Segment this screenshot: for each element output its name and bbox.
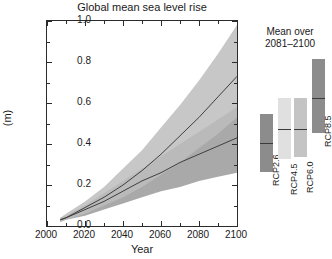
rcp-median-line (294, 129, 307, 130)
x-tick (199, 221, 200, 226)
x-tick-label: 2060 (140, 230, 180, 240)
x-tick-top (161, 21, 162, 26)
x-tick-label: 2020 (64, 230, 104, 240)
y-tick-right (234, 165, 237, 166)
x-tick-top (218, 21, 219, 24)
y-tick-label: 0.4 (51, 138, 91, 148)
y-tick-right (232, 103, 237, 104)
x-tick (237, 221, 238, 226)
y-tick-label: 0.6 (51, 97, 91, 107)
rcp-median-line (312, 98, 325, 99)
y-axis-title: (m) (1, 110, 13, 127)
x-tick (161, 221, 162, 226)
y-tick (47, 124, 50, 125)
x-tick-top (237, 21, 238, 26)
rcp-label-rcp8-5: RCP8.5 (323, 115, 332, 147)
rcp-label-rcp6-0: RCP6.0 (305, 162, 315, 194)
y-tick (47, 83, 50, 84)
x-tick-label: 2000 (26, 230, 66, 240)
panel-heading-line2: 2081–2100 (248, 38, 332, 50)
y-tick (47, 165, 50, 166)
y-tick (47, 206, 50, 207)
x-tick (47, 221, 48, 226)
x-tick-top (199, 21, 200, 26)
y-tick-right (234, 83, 237, 84)
x-tick-label: 2080 (178, 230, 218, 240)
rcp-label-rcp4-5: RCP4.5 (289, 164, 299, 196)
rcp-median-line (278, 129, 291, 130)
panel-heading: Mean over 2081–2100 (248, 26, 332, 50)
mean-over-panel: Mean over 2081–2100 RCP2.6RCP4.5RCP6.0RC… (248, 0, 332, 259)
panel-heading-line1: Mean over (248, 26, 332, 38)
rcp-bar-rcp6-0 (294, 98, 307, 157)
plot-area (46, 20, 238, 227)
x-tick-label: 2040 (102, 230, 142, 240)
y-tick-right (232, 144, 237, 145)
x-tick-top (180, 21, 181, 24)
page-title: Global mean sea level rise (46, 1, 238, 13)
rcp-bar-rcp4-5 (278, 98, 291, 160)
y-tick (47, 42, 50, 43)
x-tick (180, 223, 181, 226)
x-tick-top (142, 21, 143, 24)
y-tick-label: 1.0 (51, 15, 91, 25)
y-tick-right (232, 226, 237, 227)
y-tick-right (232, 62, 237, 63)
y-tick-right (234, 206, 237, 207)
y-tick-label: 0.8 (51, 56, 91, 66)
y-tick-right (232, 185, 237, 186)
x-tick (104, 223, 105, 226)
sea-level-rise-figure: Global mean sea level rise 0.00.20.40.60… (0, 0, 332, 259)
x-tick (123, 221, 124, 226)
x-axis-title: Year (46, 243, 238, 255)
x-tick-top (104, 21, 105, 24)
plot-svg (47, 21, 237, 226)
y-tick-right (234, 42, 237, 43)
x-tick-top (47, 21, 48, 26)
rcp-median-line (260, 143, 273, 144)
y-tick-right (234, 124, 237, 125)
x-tick (218, 223, 219, 226)
y-tick-label: 0.2 (51, 179, 91, 189)
x-tick-top (123, 21, 124, 26)
x-tick (142, 223, 143, 226)
